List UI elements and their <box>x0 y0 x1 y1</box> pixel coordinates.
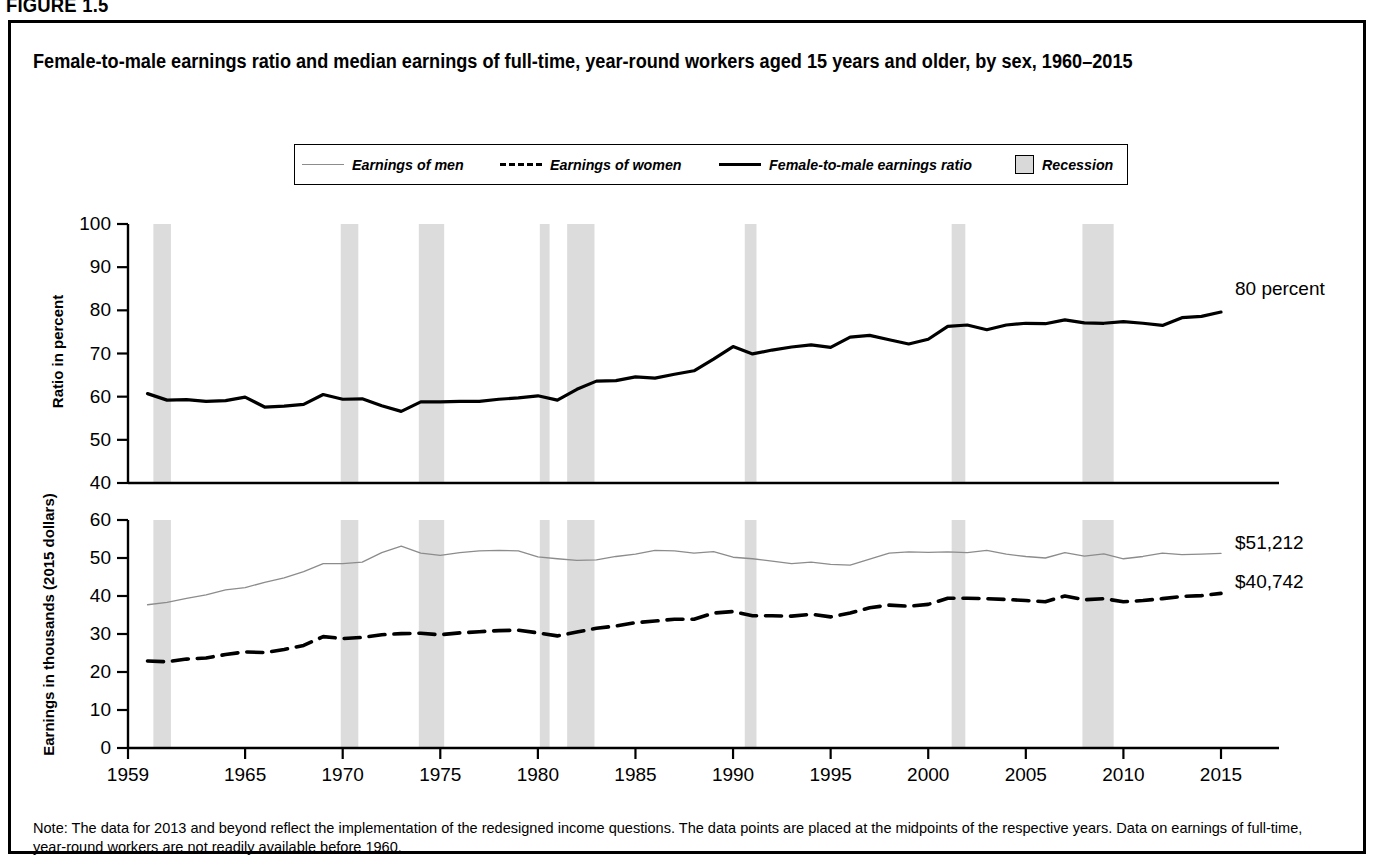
ratio-panel-y-tick-label: 70 <box>90 343 111 364</box>
earnings-panel-y-tick-label: 20 <box>90 661 111 682</box>
x-tick-label: 1980 <box>517 764 559 785</box>
x-tick-label: 1975 <box>419 764 461 785</box>
men-end-label: $51,212 <box>1235 532 1304 553</box>
x-tick-label: 1990 <box>712 764 754 785</box>
recession-band <box>745 520 757 748</box>
recession-band <box>341 520 359 748</box>
x-tick-label: 1965 <box>224 764 266 785</box>
ratio-panel-y-tick-label: 100 <box>79 213 111 234</box>
ratio-panel-y-tick-label: 50 <box>90 429 111 450</box>
recession-band <box>540 224 550 483</box>
figure-number: FIGURE 1.5 <box>6 0 108 17</box>
series-line-female-to-male-earnings-ratio <box>148 312 1221 411</box>
chart-plot-area: 4050607080901000102030405060195919651970… <box>11 83 1363 853</box>
ratio-panel-y-tick-label: 40 <box>90 472 111 493</box>
figure-root: FIGURE 1.5 Female-to-male earnings ratio… <box>0 0 1379 867</box>
ratio-panel-y-tick-label: 60 <box>90 386 111 407</box>
ratio-panel-y-tick-label: 80 <box>90 299 111 320</box>
earnings-panel-y-tick-label: 30 <box>90 623 111 644</box>
earnings-panel-y-tick-label: 40 <box>90 585 111 606</box>
earnings-panel-y-tick-label: 50 <box>90 547 111 568</box>
recession-band <box>952 224 966 483</box>
earnings-panel-y-tick-label: 0 <box>100 737 111 758</box>
series-line-earnings-of-women <box>148 593 1221 661</box>
recession-band <box>1082 224 1113 483</box>
recession-band <box>153 224 171 483</box>
women-end-label: $40,742 <box>1235 571 1304 592</box>
x-tick-label: 1959 <box>107 764 149 785</box>
series-line-earnings-of-men <box>148 546 1221 605</box>
x-tick-label: 2015 <box>1200 764 1242 785</box>
chart-title: Female-to-male earnings ratio and median… <box>33 50 1251 73</box>
recession-band <box>952 520 966 748</box>
x-tick-label: 1985 <box>614 764 656 785</box>
ratio-panel-y-tick-label: 90 <box>90 256 111 277</box>
x-tick-label: 2010 <box>1102 764 1144 785</box>
recession-band <box>567 224 594 483</box>
x-tick-label: 1995 <box>810 764 852 785</box>
ratio-end-label: 80 percent <box>1235 278 1326 299</box>
figure-frame: Female-to-male earnings ratio and median… <box>8 20 1366 854</box>
recession-band <box>153 520 171 748</box>
x-tick-label: 1970 <box>322 764 364 785</box>
earnings-panel-y-tick-label: 60 <box>90 509 111 530</box>
x-tick-label: 2000 <box>907 764 949 785</box>
chart-note: Note: The data for 2013 and beyond refle… <box>33 818 1313 856</box>
x-tick-label: 2005 <box>1005 764 1047 785</box>
recession-band <box>419 224 444 483</box>
earnings-panel-y-tick-label: 10 <box>90 699 111 720</box>
recession-band <box>341 224 359 483</box>
